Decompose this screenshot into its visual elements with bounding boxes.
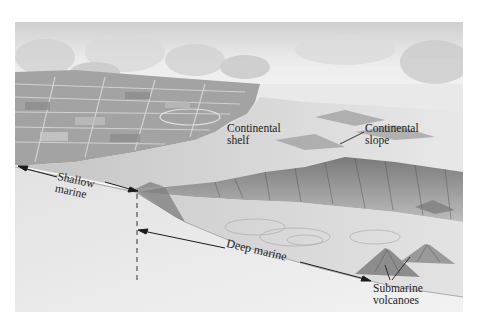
label-continental-shelf: Continental shelf [227, 122, 281, 146]
label-line: slope [365, 134, 419, 146]
label-line: Continental [365, 122, 419, 134]
label-line: Continental [227, 122, 281, 134]
landscape-illustration [15, 22, 463, 312]
label-line: volcanoes [373, 294, 423, 306]
label-continental-slope: Continental slope [365, 122, 419, 146]
continental-margin-figure: Continental shelf Continental slope Shal… [0, 0, 477, 326]
label-submarine-volcanoes: Submarine volcanoes [373, 282, 423, 306]
illustration-panel: Continental shelf Continental slope Shal… [15, 22, 463, 312]
label-line: shelf [227, 134, 281, 146]
label-line: Submarine [373, 282, 423, 294]
